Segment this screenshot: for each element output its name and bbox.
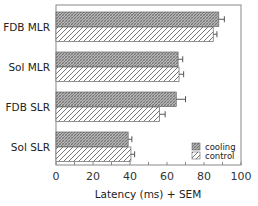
bar-fdb-mlr-control	[56, 27, 213, 42]
bar-sol-mlr-control	[56, 67, 179, 82]
legend: cooling control	[192, 142, 236, 161]
y-category-label-sol-slr: Sol SLR	[11, 141, 50, 153]
bar-sol-slr-control	[56, 147, 131, 162]
bar-fdb-slr-control	[56, 107, 160, 122]
bar-sol-mlr-cooling	[56, 52, 178, 67]
bar-fdb-slr-cooling	[56, 92, 176, 107]
latency-bar-chart: 020406080100 FDB MLRSol MLRFDB SLRSol SL…	[0, 0, 258, 206]
y-category-label-fdb-slr: FDB SLR	[6, 101, 50, 113]
x-tick-label: 80	[197, 170, 211, 183]
legend-swatch-cooling	[192, 143, 200, 150]
y-category-label-fdb-mlr: FDB MLR	[3, 21, 50, 33]
y-category-label-sol-mlr: Sol MLR	[8, 61, 50, 73]
x-tick-label: 0	[53, 170, 60, 183]
x-tick-label: 40	[123, 170, 137, 183]
bar-sol-slr-cooling	[56, 132, 128, 147]
bars-layer	[56, 12, 224, 162]
legend-swatch-control	[192, 152, 200, 159]
bar-fdb-mlr-cooling	[56, 12, 219, 27]
x-tick-label: 20	[86, 170, 100, 183]
x-axis-title: Latency (ms) + SEM	[95, 188, 202, 200]
x-tick-label: 100	[231, 170, 252, 183]
y-axis-categories: FDB MLRSol MLRFDB SLRSol SLR	[3, 21, 50, 153]
x-tick-label: 60	[160, 170, 174, 183]
legend-label-control: control	[205, 151, 234, 161]
